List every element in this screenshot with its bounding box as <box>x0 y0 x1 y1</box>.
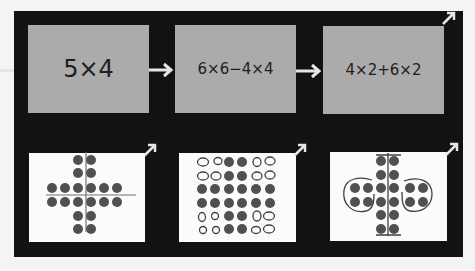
arrow-diagonal-icon <box>293 143 307 157</box>
dot-array-grouped <box>0 0 475 271</box>
arrow-diagonal-icon <box>143 143 157 157</box>
arrow-diagonal-icon <box>445 142 459 156</box>
